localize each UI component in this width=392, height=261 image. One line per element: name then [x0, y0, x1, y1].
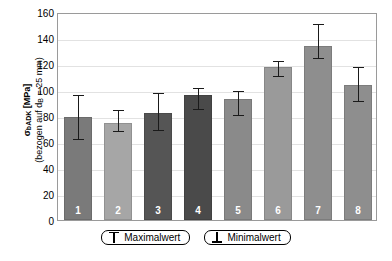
y-tick-label: 20: [24, 190, 54, 201]
error-bar-stem: [318, 24, 319, 58]
bottom-cap-icon: [212, 232, 222, 243]
y-tick-label: 120: [24, 60, 54, 71]
error-bar-min-cap: [353, 101, 364, 102]
error-bar-min-cap: [153, 130, 164, 131]
bar-group: 6: [264, 14, 292, 220]
bar: 5: [224, 99, 252, 220]
bar-category-label: 4: [185, 205, 211, 216]
error-bar-stem: [238, 91, 239, 116]
error-bar-max-cap: [353, 67, 364, 68]
error-bar-max-cap: [313, 24, 324, 25]
bar: 4: [184, 95, 212, 220]
bar-group: 1: [64, 14, 92, 220]
bar-chart: σbADK [MPa] (bezogen auf dB = 25 mm) 160…: [0, 0, 392, 261]
bar-series: 12345678: [58, 14, 376, 220]
bar-category-label: 3: [145, 205, 171, 216]
legend-label: Maximalwert: [124, 232, 180, 243]
error-bar-min-cap: [273, 76, 284, 77]
bar: 6: [264, 67, 292, 220]
y-tick-label: 60: [24, 138, 54, 149]
y-axis-tick-labels: 160140120100806040200: [20, 0, 54, 261]
y-tick-label: 140: [24, 34, 54, 45]
bar-category-label: 1: [65, 205, 91, 216]
bar-group: 2: [104, 14, 132, 220]
error-bar-min-cap: [113, 131, 124, 132]
error-bar-max-cap: [73, 95, 84, 96]
bar-group: 8: [344, 14, 372, 220]
error-bar-max-cap: [273, 61, 284, 62]
bar-group: 4: [184, 14, 212, 220]
bar-group: 7: [304, 14, 332, 220]
bar-category-label: 5: [225, 205, 251, 216]
y-tick-label: 100: [24, 86, 54, 97]
error-bar-max-cap: [153, 93, 164, 94]
error-bar-stem: [278, 61, 279, 77]
error-bar-stem: [198, 88, 199, 109]
bar: 2: [104, 123, 132, 221]
legend-label: Minimalwert: [227, 232, 280, 243]
error-bar-stem: [158, 93, 159, 129]
y-tick-label: 80: [24, 112, 54, 123]
plot-area: 12345678: [57, 13, 377, 221]
legend-item-maximalwert: Maximalwert: [101, 230, 190, 245]
bar-group: 3: [144, 14, 172, 220]
error-bar-min-cap: [313, 58, 324, 59]
error-bar-min-cap: [233, 115, 244, 116]
bar-category-label: 7: [305, 205, 331, 216]
y-tick-label: 160: [24, 8, 54, 19]
error-bar-stem: [358, 67, 359, 101]
bar-category-label: 2: [105, 205, 131, 216]
bar: 7: [304, 46, 332, 220]
error-bar-min-cap: [73, 139, 84, 140]
error-bar-stem: [118, 110, 119, 131]
y-tick-label: 40: [24, 164, 54, 175]
error-bar-max-cap: [233, 91, 244, 92]
bar-category-label: 6: [265, 205, 291, 216]
error-bar-max-cap: [193, 88, 204, 89]
error-bar-stem: [78, 95, 79, 139]
error-bar-min-cap: [193, 109, 204, 110]
bar: 8: [344, 85, 372, 220]
y-tick-label: 0: [24, 216, 54, 227]
top-cap-icon: [109, 232, 119, 243]
legend-item-minimalwert: Minimalwert: [204, 230, 290, 245]
error-bar-max-cap: [113, 110, 124, 111]
bar-group: 5: [224, 14, 252, 220]
bar-category-label: 8: [345, 205, 371, 216]
legend: MaximalwertMinimalwert: [0, 230, 392, 245]
